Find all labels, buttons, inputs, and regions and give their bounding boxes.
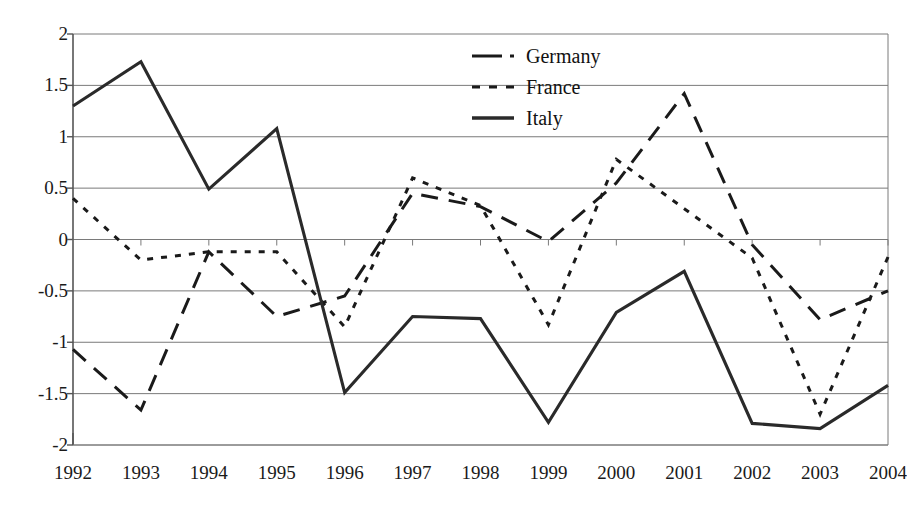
x-tick-label: 1994: [190, 463, 228, 482]
legend-label-germany: Germany: [526, 46, 600, 66]
legend-label-france: France: [526, 77, 580, 97]
chart-legend: Germany France Italy: [470, 40, 650, 133]
legend-label-italy: Italy: [526, 108, 563, 128]
x-tick-label: 1998: [462, 463, 500, 482]
x-tick-label: 1996: [326, 463, 364, 482]
legend-item-0: Germany: [470, 40, 650, 71]
x-tick-label: 1997: [394, 463, 432, 482]
legend-item-1: France: [470, 71, 650, 102]
series-line-germany: [73, 94, 888, 410]
x-tick-label: 1999: [529, 463, 567, 482]
x-tick-label: 2004: [869, 463, 907, 482]
x-tick-label: 2003: [801, 463, 839, 482]
legend-item-2: Italy: [470, 102, 650, 133]
x-tick-label: 2001: [665, 463, 703, 482]
x-tick-label: 1995: [258, 463, 296, 482]
legend-swatch-italy: [470, 111, 516, 125]
legend-swatch-germany: [470, 49, 516, 63]
legend-swatch-france: [470, 80, 516, 94]
x-tick-label: 1992: [54, 463, 92, 482]
x-tick-label: 1993: [122, 463, 160, 482]
x-tick-label: 2002: [733, 463, 771, 482]
x-tick-label: 2000: [597, 463, 635, 482]
